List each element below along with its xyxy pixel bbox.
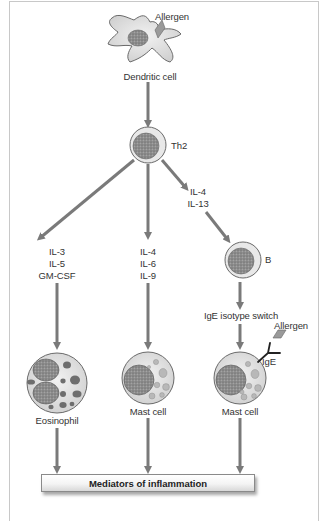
th2-label: Th2 xyxy=(171,140,187,152)
allergen-label: Allergen xyxy=(155,11,189,23)
b-cell-icon xyxy=(225,242,261,278)
mast-cell-icon xyxy=(122,352,174,404)
mast-cell-label: Mast cell xyxy=(118,406,178,418)
mediators-of-inflammation-box: Mediators of inflammation xyxy=(41,474,255,492)
eosinophil-cell-icon xyxy=(27,353,87,413)
mast-cell-label-2: Mast cell xyxy=(210,406,270,418)
mediators-label: Mediators of inflammation xyxy=(89,478,207,489)
arrow-th2-to-right-a xyxy=(162,160,186,188)
b-cell-label: B xyxy=(265,254,271,266)
eosinophil-label: Eosinophil xyxy=(27,415,87,427)
middle-cytokines-label: IL-4 IL-6 IL-9 xyxy=(118,246,178,282)
mast-cell-ige-icon xyxy=(214,352,266,404)
th2-cell-icon xyxy=(130,127,166,163)
left-cytokines-label: IL-3 IL-5 GM-CSF xyxy=(27,246,87,282)
right-cytokines-label: IL-4 IL-13 xyxy=(176,186,220,210)
allergen-label-2: Allergen xyxy=(274,320,308,332)
arrow-th2-to-right-b xyxy=(206,212,228,240)
arrow-th2-to-left xyxy=(40,160,134,238)
ige-label: IgE xyxy=(262,356,276,368)
dendritic-cell-label: Dendritic cell xyxy=(118,71,182,83)
ige-isotype-switch-label: IgE isotype switch xyxy=(200,310,282,322)
